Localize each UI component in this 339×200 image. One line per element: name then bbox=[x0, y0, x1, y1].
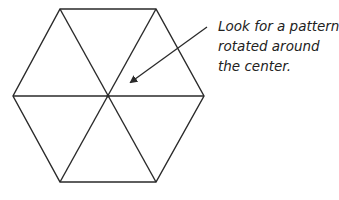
arrow-icon bbox=[131, 27, 207, 82]
annotation-line-3: the center. bbox=[218, 56, 328, 76]
annotation-line-1: Look for a pattern bbox=[218, 16, 328, 36]
annotation-line-2: rotated around bbox=[218, 36, 328, 56]
center-point bbox=[106, 94, 109, 97]
annotation-text: Look for a pattern rotated around the ce… bbox=[218, 16, 328, 76]
